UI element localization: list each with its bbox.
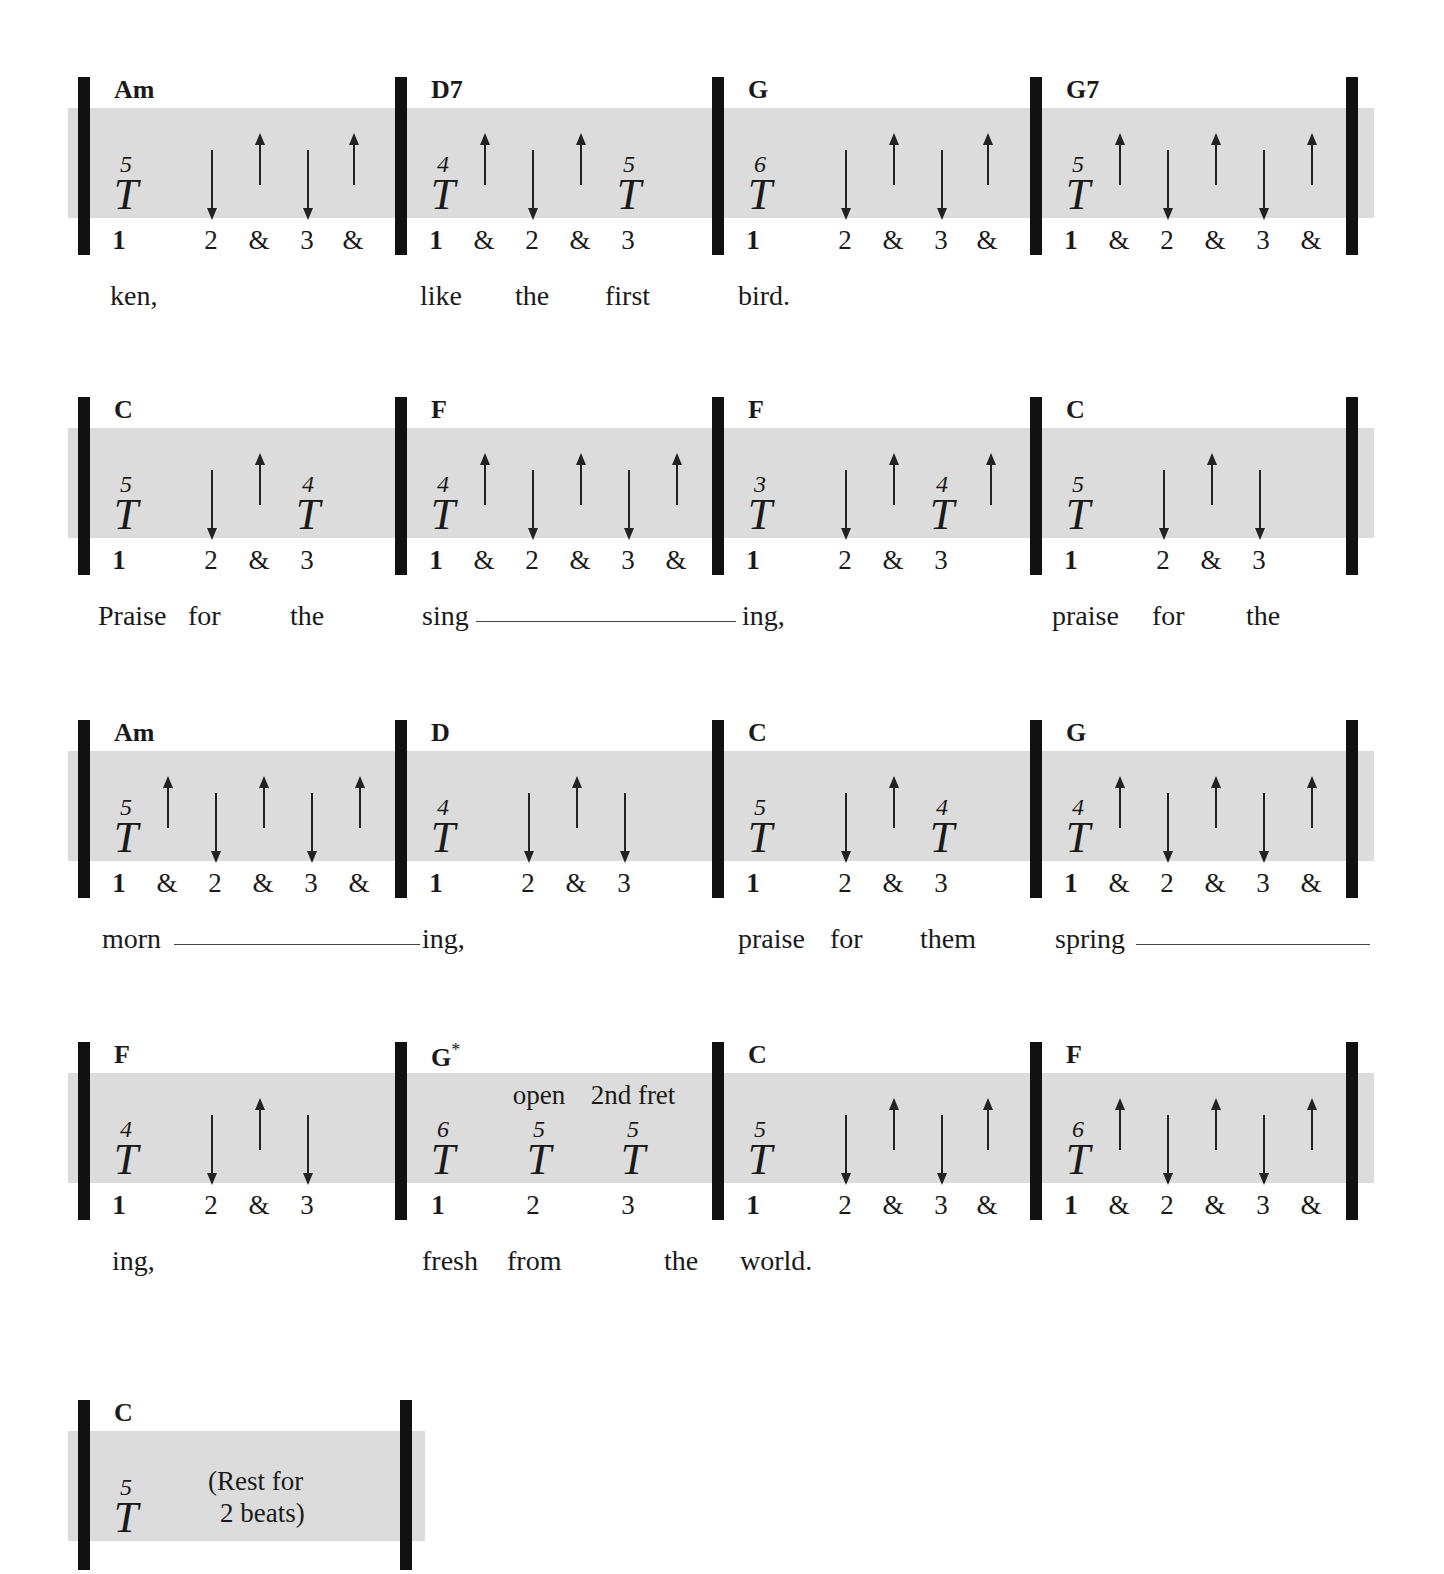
beat-count: & bbox=[878, 1190, 908, 1221]
beat-count: & bbox=[1104, 225, 1134, 256]
beat-count: 3 bbox=[1248, 1190, 1278, 1221]
down-strum-arrow-icon bbox=[1263, 1115, 1265, 1183]
chord-label: C bbox=[748, 718, 767, 747]
down-strum-arrow-icon bbox=[1263, 150, 1265, 218]
up-strum-arrow-icon bbox=[893, 135, 895, 185]
beat-count: 3 bbox=[613, 225, 643, 256]
thumb-symbol: T bbox=[609, 175, 649, 215]
up-strum-arrow-icon bbox=[893, 778, 895, 828]
thumb-pluck: 5T bbox=[1058, 153, 1098, 215]
barline bbox=[78, 397, 90, 575]
barline bbox=[1030, 77, 1042, 255]
beat-count: 2 bbox=[200, 868, 230, 899]
thumb-symbol: T bbox=[740, 818, 780, 858]
beat-count: 3 bbox=[292, 1190, 322, 1221]
down-strum-arrow-icon bbox=[628, 470, 630, 538]
up-strum-arrow-icon bbox=[1119, 778, 1121, 828]
beat-count: & bbox=[878, 868, 908, 899]
lyric-syllable: ing, bbox=[112, 1245, 155, 1277]
lyric-syllable: spring bbox=[1055, 923, 1125, 955]
thumb-pluck: 5T bbox=[1058, 473, 1098, 535]
down-strum-arrow-icon bbox=[215, 793, 217, 861]
beat-count: 3 bbox=[613, 1190, 643, 1221]
beat-count: 1 bbox=[738, 545, 768, 576]
up-strum-arrow-icon bbox=[259, 455, 261, 505]
barline bbox=[1346, 720, 1358, 898]
up-strum-arrow-icon bbox=[1311, 1100, 1313, 1150]
thumb-pluck: 5T bbox=[519, 1118, 559, 1180]
up-strum-arrow-icon bbox=[1215, 778, 1217, 828]
beat-count: & bbox=[1196, 545, 1226, 576]
beat-count: & bbox=[878, 225, 908, 256]
beat-count: 2 bbox=[196, 1190, 226, 1221]
beat-count: 3 bbox=[609, 868, 639, 899]
chord-name: C bbox=[114, 395, 133, 425]
thumb-pluck: 4T bbox=[423, 796, 463, 858]
up-strum-arrow-icon bbox=[1119, 135, 1121, 185]
beat-count: 1 bbox=[104, 545, 134, 576]
chord-label: C bbox=[1066, 395, 1085, 424]
beat-count: 2 bbox=[513, 868, 543, 899]
thumb-symbol: T bbox=[922, 495, 962, 535]
down-strum-arrow-icon bbox=[624, 793, 626, 861]
chord-label: C bbox=[114, 1398, 133, 1427]
beat-count: & bbox=[1200, 1190, 1230, 1221]
barline bbox=[712, 720, 724, 898]
tab-system: C12&35T4TF1&2&3&4TF12&33T4TC12&35TPraise… bbox=[0, 395, 1444, 655]
barline bbox=[395, 77, 407, 255]
beat-count: & bbox=[1104, 868, 1134, 899]
beat-count: & bbox=[1296, 225, 1326, 256]
thumb-pluck: 5T bbox=[613, 1118, 653, 1180]
beat-count: & bbox=[565, 545, 595, 576]
tab-system: C5T(Rest for2 beats) bbox=[0, 1398, 1444, 1574]
beat-count: & bbox=[248, 868, 278, 899]
barline bbox=[395, 1042, 407, 1220]
beat-count: 2 bbox=[830, 1190, 860, 1221]
thumb-symbol: T bbox=[740, 1140, 780, 1180]
up-strum-arrow-icon bbox=[580, 135, 582, 185]
lyric-syllable: sing bbox=[422, 600, 469, 632]
thumb-symbol: T bbox=[106, 175, 146, 215]
thumb-pluck: 4T bbox=[1058, 796, 1098, 858]
barline bbox=[78, 1042, 90, 1220]
lyric-syllable: for bbox=[1152, 600, 1185, 632]
thumb-pluck: 5T bbox=[106, 153, 146, 215]
beat-count: & bbox=[469, 545, 499, 576]
beat-count: 1 bbox=[1056, 225, 1086, 256]
beat-count: 1 bbox=[421, 225, 451, 256]
chord-name: G* bbox=[431, 1040, 460, 1073]
tab-system: Am1&2&3&5TD12&34TC12&35T4TG1&2&3&4Tmorni… bbox=[0, 718, 1444, 978]
beat-count: & bbox=[244, 225, 274, 256]
beat-count: 3 bbox=[292, 225, 322, 256]
thumb-pluck: 5T bbox=[106, 473, 146, 535]
lyric-syllable: ing, bbox=[742, 600, 785, 632]
barline bbox=[1030, 720, 1042, 898]
lyric-syllable: for bbox=[188, 600, 221, 632]
chord-name: F bbox=[748, 395, 764, 425]
up-strum-arrow-icon bbox=[1215, 1100, 1217, 1150]
thumb-pluck: 5T bbox=[106, 796, 146, 858]
down-strum-arrow-icon bbox=[532, 470, 534, 538]
thumb-pluck: 6T bbox=[1058, 1118, 1098, 1180]
up-strum-arrow-icon bbox=[167, 778, 169, 828]
lyric-syllable: fresh bbox=[422, 1245, 478, 1277]
fret-note: open bbox=[489, 1080, 589, 1111]
thumb-pluck: 4T bbox=[922, 796, 962, 858]
thumb-symbol: T bbox=[519, 1140, 559, 1180]
rest-instruction: 2 beats) bbox=[220, 1498, 305, 1529]
chord-label: C bbox=[748, 1040, 767, 1069]
beat-count: & bbox=[1104, 1190, 1134, 1221]
up-strum-arrow-icon bbox=[259, 135, 261, 185]
thumb-symbol: T bbox=[423, 1140, 463, 1180]
up-strum-arrow-icon bbox=[580, 455, 582, 505]
beat-count: 3 bbox=[292, 545, 322, 576]
chord-name: G bbox=[748, 75, 768, 105]
down-strum-arrow-icon bbox=[845, 1115, 847, 1183]
lyric-syllable: praise bbox=[1052, 600, 1119, 632]
lyric-syllable: for bbox=[830, 923, 863, 955]
up-strum-arrow-icon bbox=[353, 135, 355, 185]
up-strum-arrow-icon bbox=[990, 455, 992, 505]
thumb-pluck: 4T bbox=[106, 1118, 146, 1180]
beat-count: 1 bbox=[421, 868, 451, 899]
down-strum-arrow-icon bbox=[941, 1115, 943, 1183]
